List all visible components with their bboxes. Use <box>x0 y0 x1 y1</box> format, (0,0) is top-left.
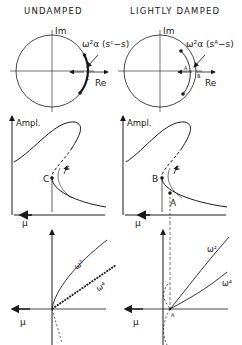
re-axis-label: Re <box>95 78 107 88</box>
branch-s-label-damped: s <box>176 164 180 172</box>
phase-formula: ω²α (sᶜ−s) <box>82 39 129 49</box>
point-c-amp: C <box>43 174 49 184</box>
phase-formula-damped: ω²α (sᴬ−s) <box>186 39 234 49</box>
im-axis-label: Im <box>55 26 66 36</box>
point-b-label: B <box>197 73 201 79</box>
point-a-amp: A <box>170 198 177 208</box>
mu-label: μ <box>22 218 28 228</box>
mu-label-freq: μ <box>20 317 26 327</box>
omega4-label: ω⁴ <box>95 281 108 294</box>
branch-s-label: s <box>66 164 70 172</box>
point-c-label: C <box>86 75 90 81</box>
undamped-amplitude-plot <box>12 116 106 215</box>
point-b-amp: B <box>152 174 158 184</box>
point-a-label: A <box>184 65 188 71</box>
damped-frequency-plot <box>125 222 229 345</box>
omega4-label-damped: ω⁴ <box>222 279 232 288</box>
diagram-canvas: Im Re ω²α (sᶜ−s) C Im Re ω²α (sᴬ−s) A B … <box>0 0 242 345</box>
omega2-label-damped: ω² <box>207 245 217 254</box>
im-axis-label-damped: Im <box>163 26 174 36</box>
mu-label-freq-damped: μ <box>133 317 139 327</box>
ampl-label-damped: Ampl. <box>127 118 152 128</box>
point-a-freq: A <box>171 312 175 318</box>
re-axis-label-damped: Re <box>205 78 217 88</box>
mu-label-damped: μ <box>135 218 141 228</box>
ampl-label: Ampl. <box>16 118 41 128</box>
